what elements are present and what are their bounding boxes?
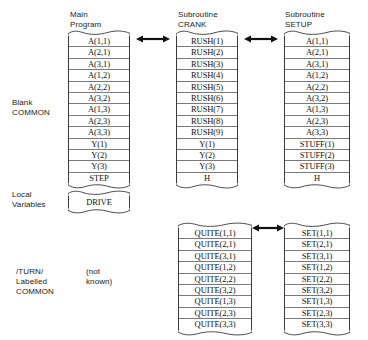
memory-cell: RUSH(1): [177, 36, 237, 47]
torn-edge-bottom-icon: [178, 330, 252, 336]
memory-cell: A(3,2): [285, 93, 349, 104]
memory-cell: DRIVE: [69, 196, 129, 208]
memory-cell: STUFF(3): [285, 161, 349, 172]
memory-cell: STEP: [69, 173, 129, 183]
block-main-local-variables: DRIVE: [68, 190, 130, 214]
memory-cell: QUITE(2,3): [179, 308, 251, 319]
side-label-turn-labelled-common: /TURN/ Labelled COMMON: [16, 267, 54, 297]
block-setup-blank-common: A(1,1)A(2,1)A(3,1)A(1,2)A(2,2)A(3,2)A(1,…: [284, 30, 350, 189]
cell-list-main-blank-common: A(1,1)A(2,1)A(3,1)A(1,2)A(2,2)A(3,2)A(1,…: [68, 36, 130, 183]
memory-cell: A(3,3): [69, 127, 129, 138]
memory-cell: A(1,3): [285, 104, 349, 115]
column-header-subroutine-crank: Subroutine CRANK: [178, 10, 218, 30]
memory-cell: SET(3,3): [285, 319, 349, 329]
memory-cell: Y(3): [177, 161, 237, 172]
torn-edge-bottom-icon: [284, 330, 350, 336]
memory-cell: QUITE(1,3): [179, 296, 251, 307]
memory-cell: A(2,3): [285, 116, 349, 127]
memory-cell: A(2,1): [285, 47, 349, 58]
memory-cell: A(3,3): [285, 127, 349, 138]
memory-cell: A(3,1): [285, 59, 349, 70]
memory-cell: SET(1,1): [285, 228, 349, 239]
memory-cell: RUSH(2): [177, 47, 237, 58]
side-label-blank-common: Blank COMMON: [12, 98, 50, 118]
memory-cell: A(2,3): [69, 116, 129, 127]
memory-cell: QUITE(3,2): [179, 285, 251, 296]
memory-cell: RUSH(3): [177, 59, 237, 70]
memory-cell: QUITE(2,1): [179, 239, 251, 250]
memory-cell: H: [177, 173, 237, 183]
memory-cell: SET(2,3): [285, 308, 349, 319]
column-header-subroutine-setup: Subroutine SETUP: [285, 10, 325, 30]
block-setup-turn-common: SET(1,1)SET(2,1)SET(3,1)SET(1,2)SET(2,2)…: [284, 222, 350, 336]
memory-cell: STUFF(2): [285, 150, 349, 161]
memory-cell: SET(2,1): [285, 239, 349, 250]
cell-list-crank-blank-common: RUSH(1)RUSH(2)RUSH(3)RUSH(4)RUSH(5)RUSH(…: [176, 36, 238, 183]
cell-list-setup-turn-common: SET(1,1)SET(2,1)SET(3,1)SET(1,2)SET(2,2)…: [284, 228, 350, 330]
memory-cell: H: [285, 173, 349, 183]
memory-cell: A(1,2): [69, 70, 129, 81]
memory-cell: A(2,2): [285, 82, 349, 93]
memory-cell: SET(2,2): [285, 274, 349, 285]
connector-arrow-crank-setup-turn: [252, 222, 284, 234]
memory-cell: RUSH(6): [177, 93, 237, 104]
connector-arrow-main-crank: [136, 33, 170, 45]
cell-list-crank-turn-common: QUITE(1,1)QUITE(2,1)QUITE(3,1)QUITE(1,2)…: [178, 228, 252, 330]
torn-edge-bottom-icon: [68, 183, 130, 189]
diagram-canvas: Main Program Subroutine CRANK Subroutine…: [0, 0, 368, 340]
cell-list-setup-blank-common: A(1,1)A(2,1)A(3,1)A(1,2)A(2,2)A(3,2)A(1,…: [284, 36, 350, 183]
memory-cell: SET(3,1): [285, 251, 349, 262]
memory-cell: QUITE(1,2): [179, 262, 251, 273]
memory-cell: A(3,2): [69, 93, 129, 104]
memory-cell: QUITE(3,1): [179, 251, 251, 262]
memory-cell: Y(2): [69, 150, 129, 161]
memory-cell: RUSH(5): [177, 82, 237, 93]
block-crank-blank-common: RUSH(1)RUSH(2)RUSH(3)RUSH(4)RUSH(5)RUSH(…: [176, 30, 238, 189]
memory-cell: QUITE(2,2): [179, 274, 251, 285]
memory-cell: A(2,2): [69, 82, 129, 93]
memory-cell: RUSH(9): [177, 127, 237, 138]
memory-cell: Y(3): [69, 161, 129, 172]
memory-cell: RUSH(7): [177, 104, 237, 115]
torn-edge-bottom-icon: [176, 183, 238, 189]
memory-cell: SET(1,3): [285, 296, 349, 307]
memory-cell: Y(1): [69, 139, 129, 150]
memory-cell: QUITE(3,3): [179, 319, 251, 329]
connector-arrow-crank-setup: [244, 33, 278, 45]
memory-cell: RUSH(8): [177, 116, 237, 127]
side-label-local-variables: Local Variables: [12, 190, 46, 210]
memory-cell: A(1,1): [285, 36, 349, 47]
torn-edge-bottom-icon: [284, 183, 350, 189]
memory-cell: RUSH(4): [177, 70, 237, 81]
memory-cell: Y(2): [177, 150, 237, 161]
memory-cell: A(1,3): [69, 104, 129, 115]
block-main-blank-common: A(1,1)A(2,1)A(3,1)A(1,2)A(2,2)A(3,2)A(1,…: [68, 30, 130, 189]
memory-cell: A(2,1): [69, 47, 129, 58]
memory-cell: A(1,1): [69, 36, 129, 47]
memory-cell: STUFF(1): [285, 139, 349, 150]
torn-edge-bottom-icon: [68, 208, 130, 214]
side-label-not-known: (not known): [86, 267, 112, 287]
memory-cell: Y(1): [177, 139, 237, 150]
memory-cell: SET(1,2): [285, 262, 349, 273]
cell-list-main-local-variables: DRIVE: [68, 196, 130, 208]
memory-cell: QUITE(1,1): [179, 228, 251, 239]
memory-cell: SET(3,2): [285, 285, 349, 296]
block-crank-turn-common: QUITE(1,1)QUITE(2,1)QUITE(3,1)QUITE(1,2)…: [178, 222, 252, 336]
memory-cell: A(3,1): [69, 59, 129, 70]
memory-cell: A(1,2): [285, 70, 349, 81]
column-header-main-program: Main Program: [70, 10, 101, 30]
